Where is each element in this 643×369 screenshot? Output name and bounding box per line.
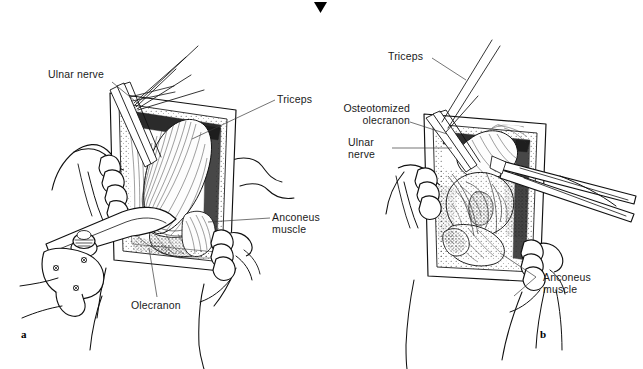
panel-letter-b: b bbox=[540, 328, 546, 340]
label-b-anconeus-muscle: Anconeus muscle bbox=[543, 271, 591, 295]
label-b-triceps: Triceps bbox=[388, 50, 423, 62]
label-a-olecranon: Olecranon bbox=[131, 299, 181, 311]
page-crop-marker-icon bbox=[314, 2, 327, 13]
label-a-anconeus-muscle: Anconeus muscle bbox=[272, 211, 320, 235]
panel-letter-a: a bbox=[21, 328, 27, 340]
label-b-ulnar-nerve: Ulnar nerve bbox=[348, 136, 375, 160]
figure-root: Ulnar nerve Triceps Anconeus muscle Olec… bbox=[0, 0, 643, 369]
label-a-ulnar-nerve: Ulnar nerve bbox=[48, 68, 104, 80]
panel-a-illustration bbox=[20, 46, 294, 369]
panel-b-illustration bbox=[386, 40, 636, 369]
label-b-osteotomized-olecranon: Osteotomized olecranon bbox=[330, 102, 410, 126]
label-a-triceps: Triceps bbox=[277, 93, 312, 105]
illustration-canvas bbox=[0, 0, 643, 369]
leader-b-triceps bbox=[432, 58, 466, 80]
